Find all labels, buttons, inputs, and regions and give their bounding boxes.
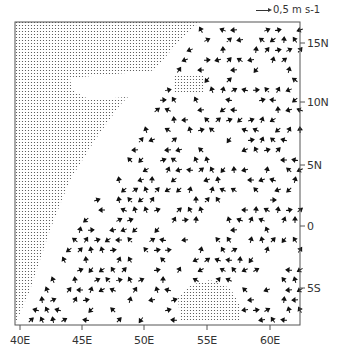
x-tick-label: 55E xyxy=(197,334,217,347)
y-tick-label: 0 xyxy=(307,220,314,233)
vector-plot xyxy=(0,0,337,354)
y-tick-label: 15N xyxy=(307,37,328,50)
x-tick-label: 50E xyxy=(134,334,154,347)
seychelles-patch xyxy=(178,280,240,320)
y-ticks xyxy=(300,43,305,288)
x-ticks xyxy=(20,325,270,330)
socotra-patch xyxy=(174,74,204,94)
y-tick-label: 10N xyxy=(307,96,328,109)
x-tick-label: 45E xyxy=(72,334,92,347)
x-tick-label: 40E xyxy=(10,334,30,347)
reference-vector-legend: 0,5 m s-1 xyxy=(256,4,320,15)
arrow-icon xyxy=(256,10,270,11)
y-tick-label: 5N xyxy=(307,159,322,172)
x-tick-label: 60E xyxy=(260,334,280,347)
y-tick-label: 5S xyxy=(307,282,320,295)
